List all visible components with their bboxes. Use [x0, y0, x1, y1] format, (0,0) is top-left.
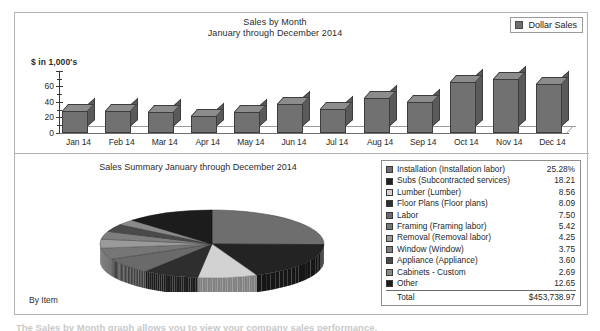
bar-chart-title: Sales by Month January through December … — [15, 17, 535, 39]
x-axis-label: Aug 14 — [364, 137, 397, 147]
pie-slice-wall — [134, 268, 136, 285]
pie-slice-wall — [240, 277, 242, 292]
pie-slice-wall — [275, 271, 279, 289]
pie-slice-wall — [129, 267, 130, 284]
pie-slice-wall — [164, 275, 166, 292]
legend-row-value: 4.25 — [559, 232, 576, 243]
bar-nov-14[interactable] — [493, 79, 519, 133]
bar-slot — [234, 71, 267, 133]
bar-feb-14[interactable] — [105, 111, 131, 133]
x-axis-label: Apr 14 — [191, 137, 224, 147]
pie-slice-wall — [245, 276, 247, 292]
pie-slice-wall — [203, 278, 206, 292]
pie-slice-wall — [140, 270, 142, 287]
legend-row[interactable]: Framing (Framing labor)5.42 — [386, 221, 576, 232]
bar-may-14[interactable] — [234, 112, 260, 133]
pie-slice-wall — [288, 268, 292, 286]
y-axis-label-20: 20 — [33, 113, 54, 121]
legend-row-label: Removal (Removal labor) — [397, 232, 559, 243]
pie-slice-wall — [153, 273, 155, 290]
pie-slice-wall — [131, 267, 133, 284]
legend-swatch-icon — [386, 212, 393, 219]
pie-slice-wall — [220, 278, 223, 292]
pie-slice-wall — [323, 248, 324, 267]
legend-row[interactable]: Labor7.50 — [386, 210, 576, 221]
pie-slice[interactable] — [212, 210, 324, 245]
legend-row[interactable]: Appliance (Appliance)3.60 — [386, 255, 576, 266]
pie-slice-wall — [200, 278, 202, 292]
legend-row[interactable]: Other12.65 — [386, 278, 576, 289]
legend-row[interactable]: Removal (Removal labor)4.25 — [386, 232, 576, 243]
pie-slice-wall — [112, 259, 113, 277]
pie-slice-wall — [247, 276, 249, 292]
legend-row-label: Floor Plans (Floor plans) — [397, 198, 559, 209]
legend-row-value: 2.69 — [559, 267, 576, 278]
pie-slice-wall — [120, 263, 121, 281]
legend-row-label: Other — [397, 278, 554, 289]
legend-swatch-icon — [386, 166, 393, 173]
legend-row-value: 7.50 — [559, 210, 576, 221]
bar-slot — [277, 71, 310, 133]
bar-chart-title-line2: January through December 2014 — [15, 28, 535, 39]
pie-slice-wall — [225, 278, 227, 292]
pie-slice-wall — [116, 262, 117, 280]
legend-row-label: Lumber (Lumber) — [397, 187, 559, 198]
bar-series-dollar-sales — [62, 71, 569, 133]
bar-dec-14[interactable] — [536, 84, 562, 133]
pie-slice-wall — [210, 278, 213, 292]
bar-aug-14[interactable] — [364, 98, 390, 133]
pie-slice-wall — [184, 277, 186, 292]
bar-oct-14[interactable] — [450, 82, 476, 133]
bar-chart-legend[interactable]: Dollar Sales — [510, 17, 583, 33]
pie-slice-wall — [213, 278, 216, 292]
x-axis-label: Jun 14 — [277, 137, 310, 147]
x-axis-label: Oct 14 — [450, 137, 483, 147]
pie-slice-wall — [186, 277, 188, 292]
pie-chart-graphic — [97, 200, 327, 292]
legend-row[interactable]: Installation (Installation labor)25.28% — [386, 164, 576, 175]
legend-row-label: Window (Window) — [397, 244, 559, 255]
bar-chart-title-line1: Sales by Month — [243, 17, 306, 27]
legend-total-label: Total — [397, 291, 529, 302]
legend-row-value: 8.09 — [559, 198, 576, 209]
bar-jan-14[interactable] — [62, 111, 88, 133]
legend-row[interactable]: Lumber (Lumber)8.56 — [386, 187, 576, 198]
legend-row-value: 8.56 — [559, 187, 576, 198]
pie-slice-wall — [162, 274, 164, 291]
pie-slice-wall — [313, 257, 315, 275]
pie-slice-wall — [110, 258, 111, 275]
pie-legend-table[interactable]: Installation (Installation labor)25.28%S… — [381, 160, 581, 306]
legend-swatch-icon — [386, 200, 393, 207]
pie-slice-wall — [107, 256, 108, 273]
bar-jul-14[interactable] — [320, 109, 346, 133]
pie-slice-wall — [108, 257, 109, 274]
pie-slice-wall — [137, 269, 139, 286]
pie-slice-wall — [311, 259, 313, 277]
y-axis-label-60: 60 — [33, 82, 54, 90]
pie-slice-wall — [198, 278, 200, 292]
pie-slice-wall — [157, 274, 159, 291]
bar-jun-14[interactable] — [277, 104, 303, 133]
legend-row[interactable]: Subs (Subcontracted services)18.21 — [386, 175, 576, 186]
bar-mar-14[interactable] — [148, 112, 174, 133]
legend-row[interactable]: Cabinets - Custom2.69 — [386, 267, 576, 278]
legend-row-value: 3.75 — [559, 244, 576, 255]
legend-row-label: Cabinets - Custom — [397, 267, 559, 278]
pie-slice-wall — [299, 264, 302, 282]
bar-apr-14[interactable] — [191, 116, 217, 133]
pie-slice-wall — [305, 262, 308, 280]
legend-row[interactable]: Floor Plans (Floor plans)8.09 — [386, 198, 576, 209]
pie-slice-wall — [223, 278, 225, 292]
bar-sep-14[interactable] — [407, 102, 433, 133]
pie-slice-wall — [108, 257, 109, 274]
x-axis-label: Jan 14 — [62, 137, 95, 147]
legend-row-value: 12.65 — [554, 278, 576, 289]
pie-slice-wall — [159, 274, 161, 291]
pie-slice-wall — [193, 278, 195, 292]
y-axis-label-40: 40 — [33, 98, 54, 106]
bar-slot — [493, 71, 526, 133]
legend-row[interactable]: Window (Window)3.75 — [386, 244, 576, 255]
report-screenshot: Sales by Month January through December … — [0, 0, 600, 331]
bar-slot — [536, 71, 569, 133]
pie-svg — [97, 200, 327, 292]
